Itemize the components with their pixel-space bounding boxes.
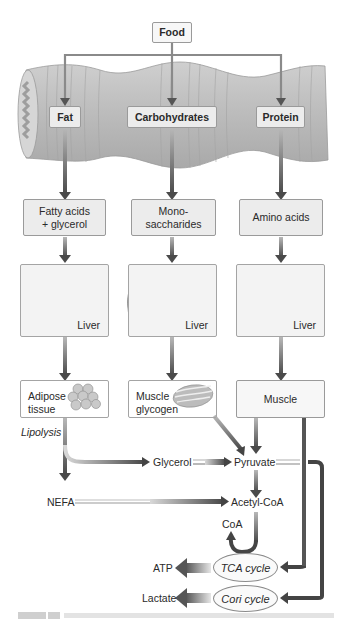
adipose-tissue-box: Adipose tissue xyxy=(20,380,109,418)
carbohydrates-box: Carbohydrates xyxy=(127,106,217,128)
glycogen-to-pyruvate-arrow xyxy=(214,416,245,456)
vertical-flow-arrows xyxy=(59,128,287,381)
nefa-label: NEFA xyxy=(47,496,74,508)
liver-label: Liver xyxy=(293,319,316,331)
protein-box: Protein xyxy=(256,106,305,128)
muscle-box: Muscle xyxy=(236,380,325,418)
liver-label: Liver xyxy=(185,319,208,331)
fatty-acids-glycerol-box: Fatty acids + glycerol xyxy=(23,199,106,236)
adipose-tissue-label: Adipose tissue xyxy=(28,390,66,416)
muscle-glycogen-box: Muscle glycogen xyxy=(128,380,217,418)
atp-label: ATP xyxy=(153,562,173,574)
lipolysis-label: Lipolysis xyxy=(21,426,61,438)
amino-acids-box: Amino acids xyxy=(239,199,323,236)
lactate-label: Lactate xyxy=(142,592,176,604)
liver-box-fat: Liver xyxy=(20,264,109,337)
food-box: Food xyxy=(152,22,192,43)
coa-label: CoA xyxy=(222,518,242,530)
monosaccharides-box: Mono- saccharides xyxy=(131,199,216,236)
tca-cycle-node: TCA cycle xyxy=(213,553,278,582)
fat-box: Fat xyxy=(49,106,81,128)
acetyl-coa-label: Acetyl-CoA xyxy=(231,496,284,508)
liver-label: Liver xyxy=(77,319,100,331)
output-arrows xyxy=(175,558,211,608)
pyruvate-label: Pyruvate xyxy=(234,456,275,468)
lipolysis-arrows xyxy=(59,418,232,507)
liver-box-carbohydrates: Liver xyxy=(128,264,217,337)
liver-box-protein: Liver xyxy=(236,264,325,337)
muscle-glycogen-label: Muscle glycogen xyxy=(136,390,178,416)
caption-blurred xyxy=(18,612,334,619)
cori-cycle-node: Cori cycle xyxy=(213,585,278,612)
glycerol-label: Glycerol xyxy=(153,456,192,468)
